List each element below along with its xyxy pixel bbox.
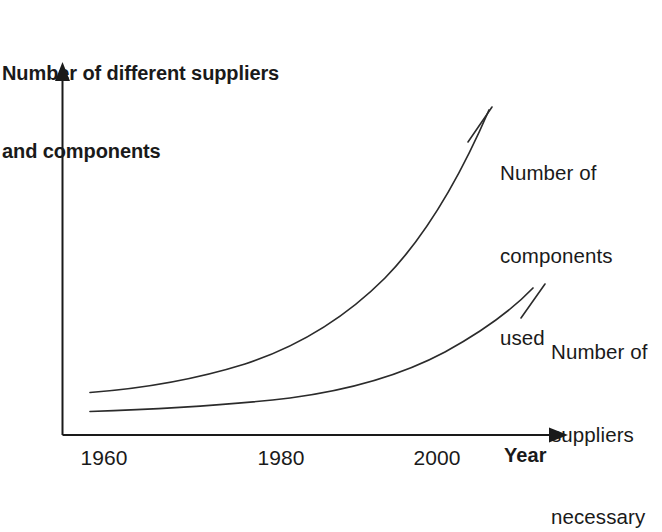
series-label-suppliers-line-1: Number of [551,338,648,366]
series-label-components-line-2: components [500,242,613,270]
series-label-suppliers: Number of suppliers necessary [551,283,648,532]
y-axis-title: Number of different suppliers and compon… [2,8,279,216]
leader-line-components [468,107,492,142]
x-tick-label-2000: 2000 [392,444,482,471]
series-label-components-line-1: Number of [500,159,613,187]
series-curve-suppliers [90,288,533,412]
x-axis-title: Year [504,442,547,469]
series-label-suppliers-line-3: necessary [551,503,648,531]
y-axis-title-line-2: and components [2,138,279,164]
x-tick-label-1980: 1980 [236,444,326,471]
x-tick-label-1960: 1960 [59,444,149,471]
y-axis-title-line-1: Number of different suppliers [2,60,279,86]
series-label-suppliers-line-2: suppliers [551,421,648,449]
